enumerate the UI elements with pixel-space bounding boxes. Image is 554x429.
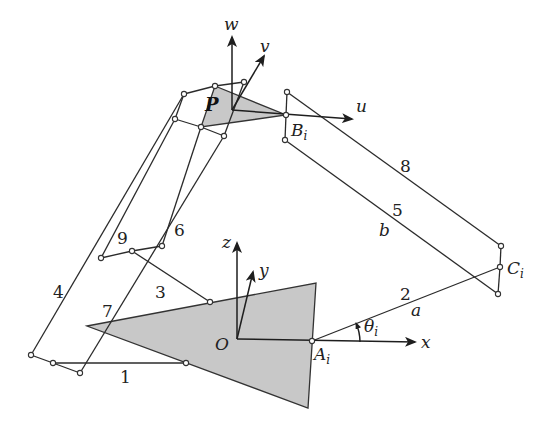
- joint: [212, 83, 217, 88]
- base-platform: [87, 283, 316, 408]
- link-Ci-bar-top: [500, 246, 501, 267]
- link-number-4: 4: [53, 282, 64, 302]
- axis-label-y: y: [258, 260, 269, 280]
- link-number-5: 5: [392, 200, 403, 220]
- length-label-a: a: [411, 300, 421, 320]
- axis-label-w: w: [224, 14, 239, 34]
- point-label-C: Ci: [507, 258, 524, 281]
- link-top-left-a: [184, 86, 215, 94]
- joint-Bi: [283, 112, 288, 117]
- joint: [50, 360, 55, 365]
- joint-Ci-bottom: [495, 291, 500, 296]
- link-number-3: 3: [155, 282, 166, 302]
- joint-Bi-bottom: [282, 137, 287, 142]
- joint: [181, 91, 186, 96]
- joint: [129, 248, 134, 253]
- link-number-7: 7: [102, 301, 113, 321]
- joint: [198, 124, 203, 129]
- length-label-b: b: [379, 220, 390, 240]
- link-Bi-bar-bottom: [285, 115, 286, 140]
- link-mid-a: [101, 251, 132, 258]
- joint: [207, 299, 212, 304]
- axis-label-x: x: [421, 332, 431, 352]
- joint: [172, 116, 177, 121]
- joint-Ci: [497, 264, 502, 269]
- link-2: [312, 267, 500, 341]
- link-bottom-a: [31, 355, 53, 363]
- joint: [221, 133, 226, 138]
- joint: [159, 243, 164, 248]
- joint-Ai: [309, 338, 314, 343]
- joint: [98, 255, 103, 260]
- theta-arc: [356, 323, 360, 342]
- link-8: [287, 92, 501, 246]
- origin-label-O: O: [215, 334, 229, 354]
- joint: [77, 370, 82, 375]
- joint-Bi-top: [284, 89, 289, 94]
- angle-label-theta: θi: [364, 316, 378, 339]
- link-top-left-e: [201, 127, 224, 136]
- link-number-6: 6: [174, 220, 185, 240]
- link-Ci-bar-bottom: [498, 267, 500, 294]
- axis-label-v: v: [260, 36, 270, 56]
- joint: [241, 79, 246, 84]
- link-number-9: 9: [117, 228, 128, 248]
- link-number-1: 1: [120, 367, 131, 387]
- parallel-manipulator-diagram: P w v u Bi O z y x Ai Ci θi a b 1 2 3 4 …: [0, 0, 554, 429]
- link-top-left-d: [175, 119, 201, 127]
- point-label-A: Ai: [312, 344, 330, 367]
- link-number-8: 8: [400, 156, 411, 176]
- joint-Ci-top: [498, 243, 503, 248]
- link-9: [101, 119, 175, 258]
- joint: [183, 360, 188, 365]
- link-top-left-b: [215, 82, 244, 86]
- link-number-2: 2: [400, 284, 411, 304]
- link-Bi-bar-top: [286, 92, 287, 115]
- platform-label-P: P: [204, 94, 219, 115]
- link-mid-b: [132, 246, 162, 251]
- axis-label-z: z: [221, 232, 232, 252]
- axis-label-u: u: [356, 96, 367, 116]
- point-label-B: Bi: [290, 120, 308, 143]
- link-bottom-b: [53, 363, 80, 373]
- joint: [28, 352, 33, 357]
- link-3: [132, 251, 210, 302]
